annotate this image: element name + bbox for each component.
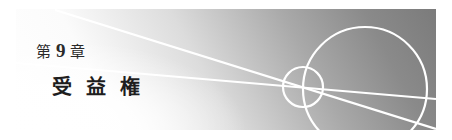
- chapter-prefix: 第: [36, 43, 51, 61]
- chapter-header-banner: 第 9 章 受益権: [16, 9, 436, 130]
- chapter-suffix: 章: [70, 43, 85, 61]
- banner-light-overlay: [16, 9, 436, 130]
- chapter-number: 9: [56, 42, 66, 60]
- chapter-title: 受益権: [52, 75, 154, 99]
- chapter-number-label: 第 9 章: [36, 42, 85, 61]
